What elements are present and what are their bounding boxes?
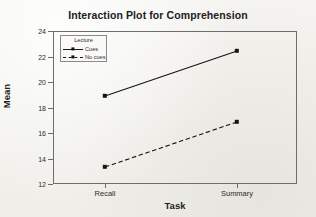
legend-item-cues: Cues (63, 45, 98, 53)
series-line-no-cues (105, 122, 237, 167)
x-tick-mark (237, 184, 238, 188)
x-tick-label-recall: Recall (95, 189, 116, 198)
legend-swatch-dashed-line-icon (63, 54, 83, 61)
x-axis-label: Task (53, 200, 297, 211)
data-point-no-cues-summary (235, 120, 239, 124)
series-line-cues (105, 51, 237, 96)
legend-label: No cues (85, 54, 106, 60)
data-point-cues-recall (103, 94, 107, 98)
legend-swatch-solid-line-icon (63, 46, 83, 53)
series-layer (0, 0, 316, 217)
x-tick-mark (105, 184, 106, 188)
interaction-plot: Interaction Plot for Comprehension 24 22… (0, 0, 316, 217)
legend: Lecture Cues No cues (60, 35, 107, 62)
x-tick-label-summary: Summary (221, 189, 253, 198)
legend-title: Lecture (61, 37, 106, 43)
data-point-cues-summary (235, 49, 239, 53)
legend-label: Cues (85, 46, 98, 52)
data-point-no-cues-recall (103, 165, 107, 169)
legend-item-no-cues: No cues (63, 53, 106, 61)
